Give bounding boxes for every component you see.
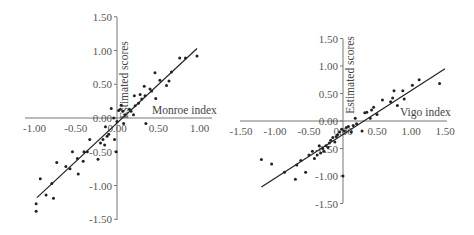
data-point xyxy=(119,108,122,111)
data-point xyxy=(355,122,358,125)
data-point xyxy=(39,177,42,180)
y-tick-label: 1.50 xyxy=(93,11,113,23)
data-point xyxy=(103,144,106,147)
data-point xyxy=(347,125,350,128)
data-point xyxy=(342,175,345,178)
data-point xyxy=(121,110,124,113)
data-point xyxy=(178,56,181,59)
data-point xyxy=(144,122,147,125)
x-axis-label: Monroe index xyxy=(152,104,217,116)
data-point xyxy=(376,113,379,116)
data-point xyxy=(295,164,298,167)
data-point xyxy=(389,100,392,103)
x-tick-label: 1.00 xyxy=(401,125,421,137)
data-point xyxy=(77,173,80,176)
data-point xyxy=(294,178,297,181)
data-point xyxy=(143,85,146,88)
data-point xyxy=(304,171,307,174)
data-point xyxy=(318,144,321,147)
x-tick-label: -1.00 xyxy=(264,125,287,137)
data-point xyxy=(393,89,396,92)
data-point xyxy=(350,131,353,134)
data-point xyxy=(82,160,85,163)
data-point xyxy=(139,93,142,96)
x-tick-label: 0.50 xyxy=(149,122,169,134)
data-point xyxy=(115,150,118,153)
data-point xyxy=(401,89,404,92)
data-point xyxy=(328,142,331,145)
data-point xyxy=(110,107,113,110)
data-point xyxy=(133,94,136,97)
data-point xyxy=(50,182,53,185)
data-point xyxy=(403,98,406,101)
data-point xyxy=(35,210,38,213)
data-point xyxy=(316,154,319,157)
y-tick-label: 1.50 xyxy=(319,33,339,45)
x-tick-label: 1.50 xyxy=(435,125,455,137)
data-point xyxy=(321,147,324,150)
data-point xyxy=(158,79,161,82)
data-point xyxy=(354,117,357,120)
data-point xyxy=(361,129,364,132)
data-point xyxy=(372,106,375,109)
data-point xyxy=(88,138,91,141)
data-point xyxy=(99,141,102,144)
data-point xyxy=(64,165,67,168)
vigo-chart: -1.50-1.00-0.500.000.501.001.501.501.000… xyxy=(230,33,456,210)
data-point xyxy=(153,71,156,74)
data-point xyxy=(322,150,325,153)
data-point xyxy=(333,140,336,143)
data-point xyxy=(124,113,127,116)
data-point xyxy=(365,111,368,114)
y-tick-label: 1.00 xyxy=(319,60,339,72)
x-axis-label: Vigo index xyxy=(400,106,451,119)
data-point xyxy=(338,131,341,134)
data-point xyxy=(336,133,339,136)
monroe-chart: -1.00-0.500.000.501.001.501.000.500.00-0… xyxy=(23,11,217,226)
data-point xyxy=(120,104,123,107)
data-point xyxy=(101,138,104,141)
y-tick-label: 0.50 xyxy=(93,78,113,90)
data-point xyxy=(35,202,38,205)
data-point xyxy=(308,154,311,157)
data-point xyxy=(391,96,394,99)
y-tick-label: -1.50 xyxy=(315,198,338,210)
data-point xyxy=(343,129,346,132)
x-tick-label: 1.00 xyxy=(190,122,210,134)
data-point xyxy=(45,193,48,196)
y-axis-label: Estimated scores xyxy=(118,41,130,119)
data-point xyxy=(418,78,421,81)
y-tick-label: -1.00 xyxy=(89,180,112,192)
x-tick-label: 0.50 xyxy=(367,125,387,137)
data-point xyxy=(140,98,143,101)
data-point xyxy=(438,82,441,85)
x-tick-label: -0.50 xyxy=(64,122,87,134)
y-tick-label: -1.50 xyxy=(89,213,112,225)
data-point xyxy=(319,151,322,154)
y-tick-label: -0.50 xyxy=(89,146,112,158)
data-point xyxy=(167,79,170,82)
data-point xyxy=(144,94,147,97)
data-point xyxy=(381,99,384,102)
data-point xyxy=(369,117,372,120)
x-tick-label: -0.50 xyxy=(298,125,321,137)
data-point xyxy=(83,150,86,153)
data-point xyxy=(299,159,302,162)
data-point xyxy=(137,102,140,105)
data-point xyxy=(154,97,157,100)
data-point xyxy=(327,146,330,149)
y-tick-label: 1.00 xyxy=(93,45,113,57)
x-tick-label: -1.50 xyxy=(230,125,253,137)
y-tick-label: -1.00 xyxy=(315,170,338,182)
data-point xyxy=(55,161,58,164)
data-point xyxy=(260,158,263,161)
y-tick-label: 0.00 xyxy=(93,112,113,124)
y-axis-label: Estimated scores xyxy=(344,36,356,114)
data-point xyxy=(76,157,79,160)
y-tick-label: 0.50 xyxy=(319,88,339,100)
data-point xyxy=(352,124,355,127)
data-point xyxy=(134,104,137,107)
data-point xyxy=(165,84,168,87)
data-point xyxy=(112,117,115,120)
data-point xyxy=(150,90,153,93)
